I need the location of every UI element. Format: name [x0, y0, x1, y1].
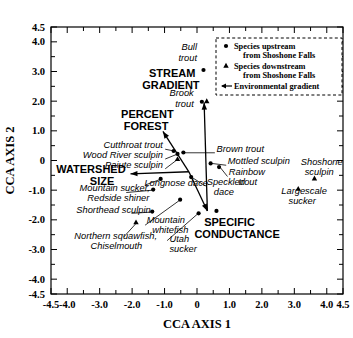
species-label: Utah [169, 234, 189, 244]
data-point-circle [214, 209, 218, 213]
y-tick-label: -4.5 [28, 289, 45, 300]
data-point-circle [172, 149, 176, 153]
gradient-label: FOREST [124, 120, 169, 132]
species-label: Redside shiner [87, 193, 150, 203]
species-label: trout [175, 99, 194, 109]
y-tick-label: -2.0 [28, 214, 45, 225]
species-label: Chiselmouth [91, 241, 143, 251]
legend-label-continued: from Shoshone Falls [243, 51, 316, 60]
gradient-label: SIZE [90, 175, 114, 187]
y-tick-label: -1.0 [28, 185, 45, 196]
x-axis-tick-labels: -4.5-4.0-3.0-2.0-1.001.02.03.04.04.5 [43, 299, 350, 310]
species-label: sucker [288, 196, 316, 206]
data-point-circle [217, 165, 221, 169]
species-label: Mountain [147, 215, 185, 225]
species-label: Northern squawfish, [74, 231, 157, 241]
legend-label-continued: from Shoshone Falls [243, 71, 316, 80]
gradient-arrow-shaft [204, 103, 207, 211]
cca-ordination-figure: -4.5-4.0-3.0-2.0-1.001.02.03.04.04.54.54… [0, 0, 353, 338]
data-point-circle [181, 150, 185, 154]
x-tick-label: -4.5 [43, 299, 60, 310]
leader-line [165, 160, 177, 169]
data-point-circle [175, 152, 179, 156]
species-label: Bull [181, 42, 197, 52]
data-point-circle [209, 161, 213, 165]
data-point-circle [178, 198, 182, 202]
species-label: sculpin [305, 167, 334, 177]
species-label: dace [214, 187, 234, 197]
cca-scatter-plot: -4.5-4.0-3.0-2.0-1.001.02.03.04.04.54.54… [0, 0, 353, 338]
y-axis-title: CCA AXIS 2 [3, 126, 17, 194]
y-tick-label: -4.0 [28, 274, 45, 285]
y-tick-label: 0 [40, 155, 45, 166]
x-tick-label: 4.5 [336, 299, 349, 310]
gradient-label: GRADIENT [142, 79, 200, 91]
data-point-circle [197, 211, 201, 215]
data-point-circle [151, 187, 155, 191]
species-label: Shoshone [301, 157, 343, 167]
x-tick-label: -4.0 [59, 299, 76, 310]
gradient-label: CONDUCTANCE [194, 228, 279, 240]
y-tick-label: 4.0 [32, 36, 45, 47]
y-axis-tick-labels: 4.54.03.02.01.00-1.0-2.0-3.0-4.0-4.5 [28, 22, 45, 300]
data-point-circle [201, 68, 205, 72]
species-label: Cutthroat trout [103, 140, 163, 150]
gradient-label: STREAM [149, 67, 195, 79]
y-tick-label: 1.0 [32, 125, 45, 136]
leader-line [165, 155, 176, 159]
species-label: Shorthead sculpin [76, 205, 150, 215]
gradient-label: SPECIFIC [204, 216, 255, 228]
leader-line [220, 168, 227, 177]
gradient-label: WATERSHED [56, 163, 126, 175]
y-tick-label: 2.0 [32, 96, 45, 107]
species-label: Brown trout [216, 144, 264, 154]
x-tick-label: -2.0 [124, 299, 141, 310]
x-tick-label: 1.0 [223, 299, 236, 310]
species-label: Largescale [281, 186, 326, 196]
gradient-arrow-head [130, 171, 137, 176]
legend-label: Environmental gradient [234, 82, 320, 91]
legend-marker-circle [224, 44, 228, 48]
legend: Species upstreamfrom Shoshone FallsSpeci… [216, 38, 342, 95]
data-point-triangle [133, 219, 138, 224]
species-label: Mottled sculpin [228, 156, 290, 166]
y-tick-label: 3.0 [32, 66, 45, 77]
x-tick-label: -1.0 [156, 299, 173, 310]
legend-label: Species upstream [234, 42, 295, 51]
gradient-arrow-shaft [130, 172, 188, 174]
gradient-arrow-head [163, 131, 169, 138]
x-tick-label: 0 [194, 299, 199, 310]
x-tick-label: 2.0 [255, 299, 268, 310]
species-label: Wood River sculpin [83, 150, 163, 160]
data-point-circle [150, 209, 154, 213]
x-tick-label: -3.0 [91, 299, 108, 310]
species-label: trout [178, 53, 197, 63]
data-point-circle [200, 100, 204, 104]
gradient-arrow-head [202, 203, 207, 210]
species-label: Speckled [207, 177, 246, 187]
data-point-triangle [204, 98, 209, 103]
legend-label: Species downstream [234, 62, 306, 71]
species-label: Longnose dace [144, 178, 208, 188]
x-axis-title: CCA AXIS 1 [163, 317, 231, 331]
x-tick-label: 4.0 [320, 299, 333, 310]
y-tick-label: -3.0 [28, 244, 45, 255]
x-tick-label: 3.0 [288, 299, 301, 310]
y-tick-label: 4.5 [32, 22, 45, 33]
gradient-label: PERCENT [121, 108, 174, 120]
species-label: sucker [169, 244, 197, 254]
